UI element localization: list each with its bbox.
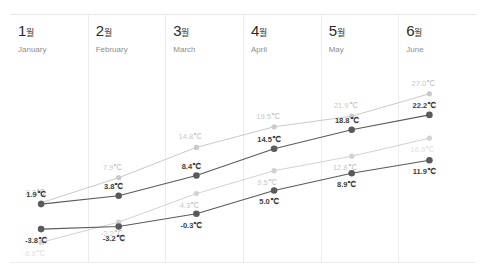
data-label-gray-low-3: 9.5℃ [257, 177, 276, 186]
data-point-gray-low-5[interactable] [427, 136, 432, 141]
data-label-dark-low-5: 11.9℃ [413, 167, 436, 176]
data-label-gray-low-2: 4.3℃ [180, 200, 199, 209]
series-line-dark-low [41, 160, 429, 229]
data-label-dark-high-5: 22.2℃ [413, 100, 437, 109]
data-point-dark-high-2[interactable] [193, 172, 200, 179]
data-label-gray-high-5: 27.0℃ [412, 78, 436, 87]
data-label-gray-low-0: -6.8℃ [23, 249, 45, 258]
data-label-gray-high-2: 14.8℃ [179, 132, 203, 141]
data-point-gray-high-2[interactable] [194, 145, 199, 150]
data-point-gray-low-3[interactable] [272, 168, 277, 173]
data-label-gray-high-1: 7.9℃ [103, 162, 122, 171]
data-point-gray-high-5[interactable] [427, 91, 432, 96]
series-line-dark-high [41, 115, 429, 204]
data-label-dark-high-1: 3.8℃ [104, 181, 123, 190]
temperature-chart-panel: 1월January2월February3월March4월April5월May6월… [0, 0, 486, 276]
data-point-gray-low-2[interactable] [194, 191, 199, 196]
data-label-dark-low-2: -0.3℃ [180, 220, 202, 229]
data-label-dark-low-4: 8.9℃ [337, 180, 356, 189]
data-label-gray-high-3: 19.5℃ [256, 111, 280, 120]
data-label-dark-high-3: 14.5℃ [257, 134, 281, 143]
data-point-dark-low-5[interactable] [426, 157, 433, 164]
data-label-dark-high-4: 18.8℃ [335, 115, 359, 124]
chart-plot-area [0, 0, 486, 276]
data-point-dark-low-2[interactable] [193, 211, 200, 218]
data-point-dark-low-3[interactable] [271, 187, 278, 194]
data-label-gray-low-5: 16.9℃ [411, 145, 435, 154]
data-label-dark-low-1: -3.2℃ [103, 233, 125, 242]
data-point-dark-low-0[interactable] [38, 226, 45, 233]
data-label-dark-high-2: 8.4℃ [182, 161, 201, 170]
data-point-gray-high-3[interactable] [272, 124, 277, 129]
data-point-gray-low-4[interactable] [349, 154, 354, 159]
data-label-dark-high-0: 1.9℃ [26, 190, 45, 199]
bottom-divider [10, 262, 476, 263]
data-label-gray-low-4: 12.8℃ [333, 163, 357, 172]
data-point-dark-high-0[interactable] [38, 201, 45, 208]
data-label-dark-low-0: -3.8℃ [25, 236, 47, 245]
data-label-dark-low-3: 5.0℃ [259, 197, 278, 206]
data-point-dark-high-5[interactable] [426, 112, 433, 119]
data-point-gray-high-1[interactable] [116, 175, 121, 180]
data-label-gray-high-4: 21.9℃ [334, 101, 358, 110]
data-point-dark-high-4[interactable] [348, 127, 355, 134]
data-point-dark-high-1[interactable] [115, 192, 122, 199]
data-point-dark-high-3[interactable] [271, 145, 278, 152]
series-line-gray-high [41, 94, 429, 203]
